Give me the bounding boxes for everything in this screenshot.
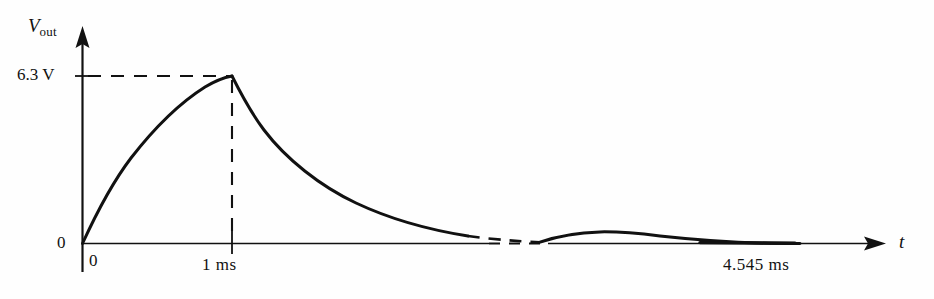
- peak-voltage-label: 6.3 V: [17, 66, 54, 83]
- y-axis-title-variable: V: [28, 15, 40, 36]
- x-axis-zero-label: 0: [89, 252, 98, 269]
- waveform-figure: Vout t 6.3 V 0 0 1 ms 4.545 ms: [0, 0, 934, 299]
- discharge-curve-break-dashes: [468, 236, 540, 242]
- y-axis-zero-label: 0: [57, 234, 66, 251]
- y-axis-title: Vout: [28, 16, 57, 38]
- y-axis-title-subscript: out: [40, 24, 57, 39]
- x-tick-label-1ms: 1 ms: [202, 256, 237, 273]
- x-axis-title: t: [899, 232, 904, 251]
- charging-curve: [83, 76, 233, 244]
- discharge-curve-left: [232, 76, 468, 236]
- curve-tail-on-axis: [700, 243, 795, 244]
- x-tick-label-4545ms: 4.545 ms: [723, 256, 789, 273]
- plot-canvas: [0, 0, 934, 299]
